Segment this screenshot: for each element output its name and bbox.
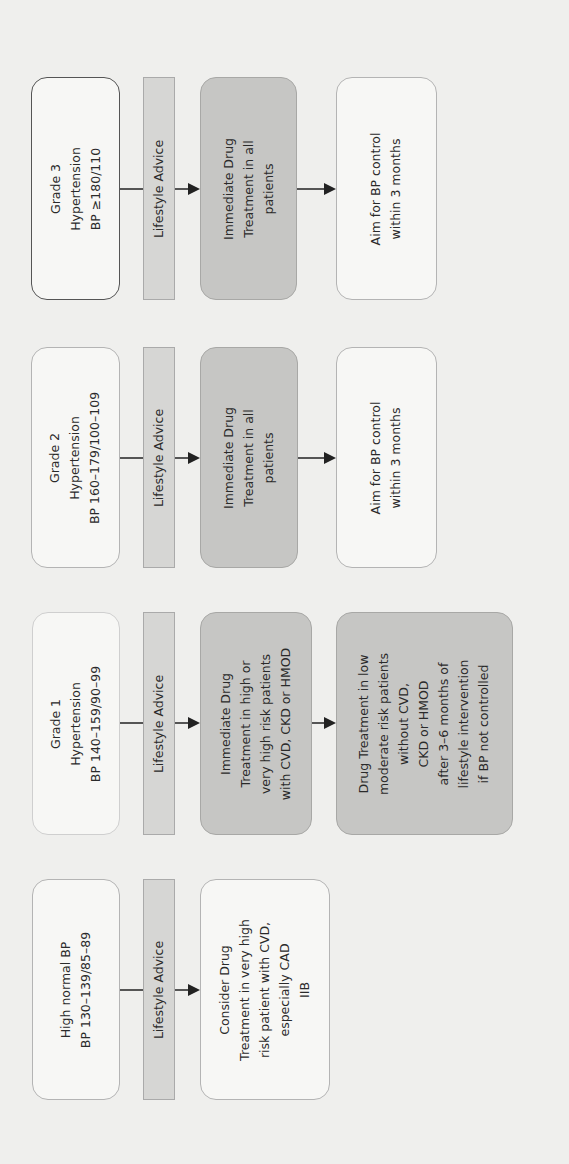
grade2-label: Grade 2 Hypertension BP 160–179/100–109	[46, 391, 106, 523]
high-normal-treatment-box: Consider Drug Treatment in very high ris…	[200, 879, 330, 1100]
grade2-arrow-icon	[188, 452, 200, 464]
grade3-label-box: Grade 3 Hypertension BP ≥180/110	[31, 77, 120, 300]
grade3-lifestyle-text: Lifestyle Advice	[149, 139, 169, 237]
grade1-arrow-line	[175, 722, 189, 724]
high-normal-lifestyle-text: Lifestyle Advice	[149, 940, 169, 1038]
grade3-outcome-box: Aim for BP control within 3 months	[336, 77, 437, 300]
grade1-lifestyle-text: Lifestyle Advice	[149, 674, 169, 772]
grade2-label-box: Grade 2 Hypertension BP 160–179/100–109	[31, 347, 120, 568]
high-normal-arrow-icon	[188, 984, 200, 996]
grade1-treatment-box: Immediate Drug Treatment in high or very…	[200, 612, 312, 835]
grade1-arrow2-icon	[324, 717, 336, 729]
grade3-lifestyle-bar: Lifestyle Advice	[143, 77, 175, 300]
grade3-treatment-text: Immediate Drug Treatment in all patients	[219, 138, 279, 240]
grade3-arrow-line	[175, 188, 189, 190]
grade3-label: Grade 3 Hypertension BP ≥180/110	[45, 147, 105, 231]
grade1-lifestyle-bar: Lifestyle Advice	[143, 612, 175, 835]
grade3-connector-line	[120, 188, 143, 190]
grade1-label: Grade 1 Hypertension BP 140–159/90–99	[46, 665, 106, 781]
high-normal-connector-line	[120, 989, 143, 991]
grade3-arrow-icon	[188, 183, 200, 195]
grade1-deferred-treatment-text: Drug Treatment in low moderate risk pati…	[355, 652, 495, 794]
grade1-label-box: Grade 1 Hypertension BP 140–159/90–99	[32, 612, 120, 835]
grade2-treatment-text: Immediate Drug Treatment in all patients	[219, 407, 279, 509]
grade1-arrow-icon	[188, 717, 200, 729]
grade1-treatment-text: Immediate Drug Treatment in high or very…	[216, 647, 296, 799]
grade3-arrow2-icon	[324, 183, 336, 195]
high-normal-label-box: High normal BP BP 130–139/85–89	[32, 879, 120, 1100]
grade3-treatment-box: Immediate Drug Treatment in all patients	[200, 77, 297, 300]
grade2-treatment-box: Immediate Drug Treatment in all patients	[200, 347, 298, 568]
grade2-outcome-box: Aim for BP control within 3 months	[336, 347, 437, 568]
grade2-arrow2-line	[298, 457, 325, 459]
grade2-outcome-text: Aim for BP control within 3 months	[367, 401, 407, 514]
high-normal-treatment-text: Consider Drug Treatment in very high ris…	[215, 919, 315, 1061]
grade3-outcome-text: Aim for BP control within 3 months	[367, 132, 407, 245]
high-normal-lifestyle-bar: Lifestyle Advice	[143, 879, 175, 1100]
grade2-arrow-line	[175, 457, 189, 459]
grade2-arrow2-icon	[324, 452, 336, 464]
grade2-lifestyle-bar: Lifestyle Advice	[143, 347, 175, 568]
high-normal-arrow-line	[175, 989, 189, 991]
grade3-arrow2-line	[297, 188, 325, 190]
grade2-lifestyle-text: Lifestyle Advice	[149, 408, 169, 506]
high-normal-label: High normal BP BP 130–139/85–89	[56, 931, 96, 1047]
grade2-connector-line	[120, 457, 143, 459]
grade1-connector-line	[120, 722, 143, 724]
grade1-deferred-treatment-box: Drug Treatment in low moderate risk pati…	[336, 612, 513, 835]
